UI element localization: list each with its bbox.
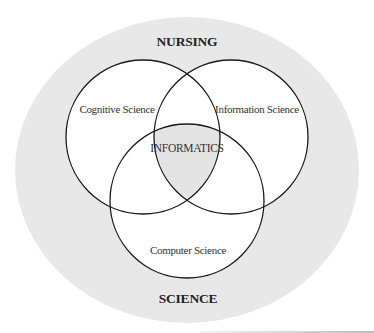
nursing-label: NURSING — [157, 34, 219, 49]
venn-diagram: NURSING SCIENCE Cognitive Science Inform… — [0, 0, 374, 333]
information-science-label: Information Science — [215, 103, 299, 115]
science-label: SCIENCE — [159, 291, 218, 306]
cognitive-science-label: Cognitive Science — [79, 103, 155, 115]
informatics-label: INFORMATICS — [150, 142, 223, 154]
computer-science-label: Computer Science — [150, 244, 227, 256]
